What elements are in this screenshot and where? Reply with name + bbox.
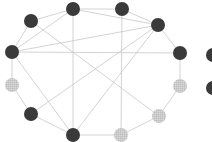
node-M-dark xyxy=(206,48,212,62)
node-N-dark xyxy=(206,81,212,95)
node-G-hatched xyxy=(152,109,166,123)
node-A-dark xyxy=(24,14,38,28)
node-L-dark xyxy=(5,45,19,59)
edge-L-I xyxy=(12,52,73,135)
edge-L-E xyxy=(12,52,180,53)
node-H-hatched xyxy=(114,128,128,142)
node-I-dark xyxy=(66,128,80,142)
edge-I-J xyxy=(31,114,73,135)
node-E-dark xyxy=(173,46,187,60)
edge-D-L xyxy=(12,25,158,52)
network-graph xyxy=(0,0,212,142)
node-layer xyxy=(5,2,212,142)
node-C-dark xyxy=(115,2,129,16)
edge-A-G xyxy=(31,21,159,116)
node-K-hatched xyxy=(5,78,19,92)
edge-D-I xyxy=(73,25,158,135)
node-B-dark xyxy=(66,2,80,16)
node-D-dark xyxy=(151,18,165,32)
node-J-dark xyxy=(24,107,38,121)
node-F-hatched xyxy=(173,79,187,93)
